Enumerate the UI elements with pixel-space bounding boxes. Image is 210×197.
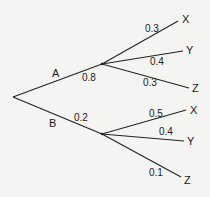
event-label-a-y: Y xyxy=(186,45,193,56)
probability-tree-diagram: A 0.8 B 0.2 0.3 X 0.4 Y 0.3 Z 0.5 X 0.4 … xyxy=(0,0,210,197)
prob-label-a-z: 0.3 xyxy=(143,78,157,88)
prob-label-b: 0.2 xyxy=(74,113,88,123)
branch-root-b xyxy=(13,97,102,134)
prob-label-a-x: 0.3 xyxy=(145,24,159,34)
tree-branches xyxy=(0,0,210,197)
branch-b-x xyxy=(102,110,186,134)
node-a-dot xyxy=(101,63,104,66)
prob-label-b-x: 0.5 xyxy=(149,109,163,119)
prob-label-a: 0.8 xyxy=(82,73,96,83)
branch-b-z xyxy=(102,134,181,177)
event-label-a-z: Z xyxy=(192,83,199,94)
event-label-b: B xyxy=(49,118,56,129)
event-label-b-y: Y xyxy=(187,136,194,147)
prob-label-b-y: 0.4 xyxy=(159,127,173,137)
node-b-dot xyxy=(101,133,104,136)
event-label-b-z: Z xyxy=(184,175,191,186)
event-label-a: A xyxy=(52,68,59,79)
event-label-b-x: X xyxy=(190,105,197,116)
prob-label-b-z: 0.1 xyxy=(149,168,163,178)
event-label-a-x: X xyxy=(182,14,189,25)
prob-label-a-y: 0.4 xyxy=(150,57,164,67)
